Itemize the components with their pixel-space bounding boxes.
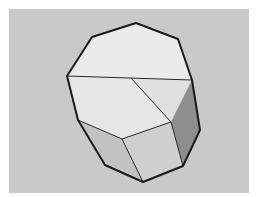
polyhedron-diagram [0,0,259,197]
figure-canvas [0,0,259,197]
